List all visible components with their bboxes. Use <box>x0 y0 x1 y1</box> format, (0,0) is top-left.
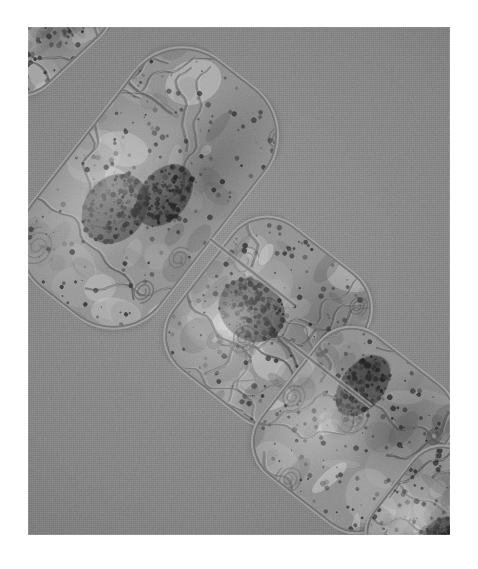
electron-micrograph-image <box>28 27 450 535</box>
figure-root: Grayscale transmission electron microgra… <box>0 0 478 569</box>
